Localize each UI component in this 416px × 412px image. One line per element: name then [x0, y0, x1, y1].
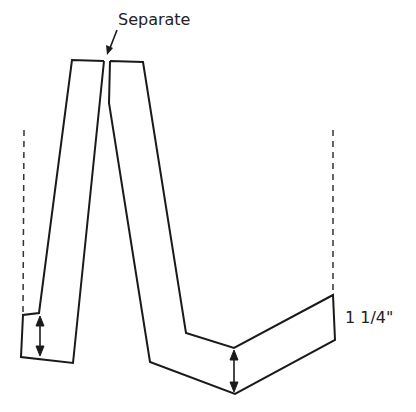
bottom-dimension-arrow [230, 350, 238, 392]
right-piece-outline [109, 61, 335, 394]
separate-label: Separate [118, 10, 190, 29]
left-piece-outline [21, 60, 104, 363]
left-guide-line [23, 130, 24, 313]
pattern-diagram [0, 0, 416, 412]
dimension-label: 1 1/4" [345, 308, 393, 327]
separate-arrow [106, 30, 117, 55]
left-dimension-arrow [36, 316, 44, 356]
